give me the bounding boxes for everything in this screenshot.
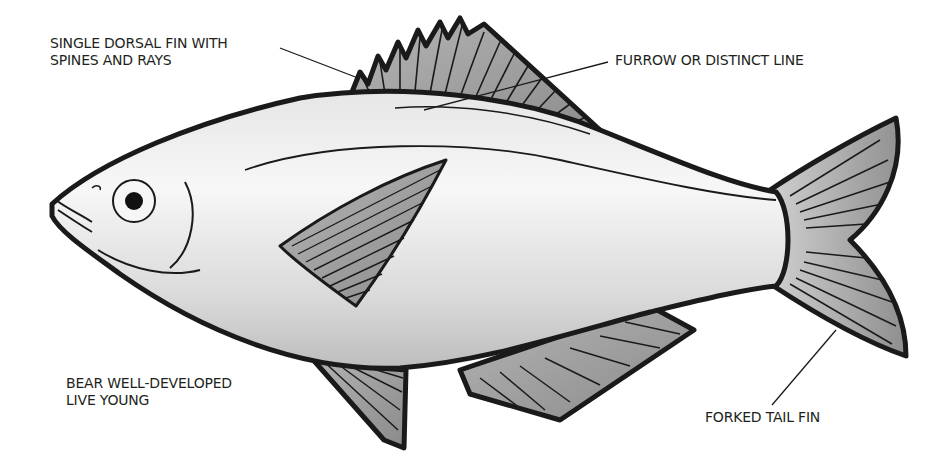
label-live-young-line2: LIVE YOUNG: [66, 392, 232, 409]
label-dorsal-fin-line2: SPINES AND RAYS: [50, 52, 228, 69]
label-tail-fin: FORKED TAIL FIN: [705, 409, 820, 426]
leader-dorsal-fin: [280, 48, 358, 78]
label-live-young-line1: BEAR WELL-DEVELOPED: [66, 375, 232, 392]
eye: [113, 180, 155, 222]
label-furrow: FURROW OR DISTINCT LINE: [615, 52, 804, 69]
leader-tail-fin: [772, 330, 836, 405]
fish-diagram: SINGLE DORSAL FIN WITH SPINES AND RAYS F…: [0, 0, 949, 473]
label-dorsal-fin: SINGLE DORSAL FIN WITH SPINES AND RAYS: [50, 35, 228, 69]
label-live-young: BEAR WELL-DEVELOPED LIVE YOUNG: [66, 375, 232, 409]
label-dorsal-fin-line1: SINGLE DORSAL FIN WITH: [50, 35, 228, 52]
